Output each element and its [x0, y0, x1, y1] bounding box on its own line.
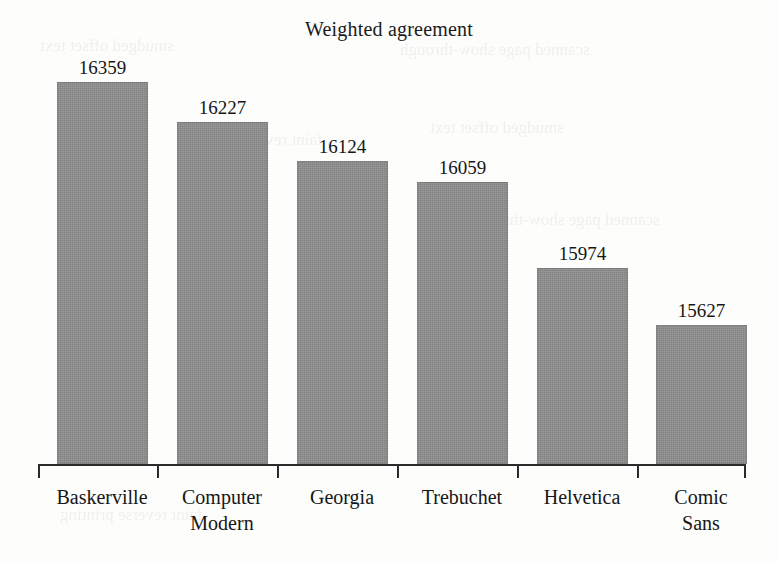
bar [57, 82, 148, 464]
axis-tick [38, 464, 40, 478]
bar-value-label: 15627 [656, 300, 747, 322]
x-axis-category-label: Georgia [272, 485, 412, 511]
axis-tick [397, 464, 399, 478]
axis-tick [157, 464, 159, 478]
x-axis-category-label-line: Comic [631, 485, 771, 511]
x-axis-category-label: Comic Sans [631, 485, 771, 536]
x-axis-category-label: Computer Modern [152, 485, 292, 536]
x-axis-category-label-line: Sans [631, 511, 771, 537]
axis-tick [517, 464, 519, 478]
chart-figure: smudged offset text scanned page show-th… [0, 0, 778, 563]
x-axis-category-label-line: Georgia [272, 485, 412, 511]
x-axis-category-label-line: Modern [152, 511, 292, 537]
axis-tick [277, 464, 279, 478]
x-axis-category-label-line: Trebuchet [392, 485, 532, 511]
bar [417, 182, 508, 464]
bar-value-label: 15974 [537, 243, 628, 265]
bar [297, 161, 388, 464]
bar [656, 325, 747, 464]
x-axis-category-label-line: Computer [152, 485, 292, 511]
axis-tick [637, 464, 639, 478]
bar-value-label: 16124 [297, 136, 388, 158]
x-axis-line [38, 464, 746, 466]
x-axis-category-label: Trebuchet [392, 485, 532, 511]
x-axis-category-label: Baskerville [32, 485, 172, 511]
x-axis-category-label-line: Baskerville [32, 485, 172, 511]
bar-value-label: 16059 [417, 157, 508, 179]
axis-tick [744, 464, 746, 478]
bar [537, 268, 628, 464]
bar-value-label: 16227 [177, 97, 268, 119]
bar-value-label: 16359 [57, 57, 148, 79]
bar [177, 122, 268, 464]
plot-area: 16359 16227 16124 16059 15974 15627 Bask… [0, 0, 778, 563]
